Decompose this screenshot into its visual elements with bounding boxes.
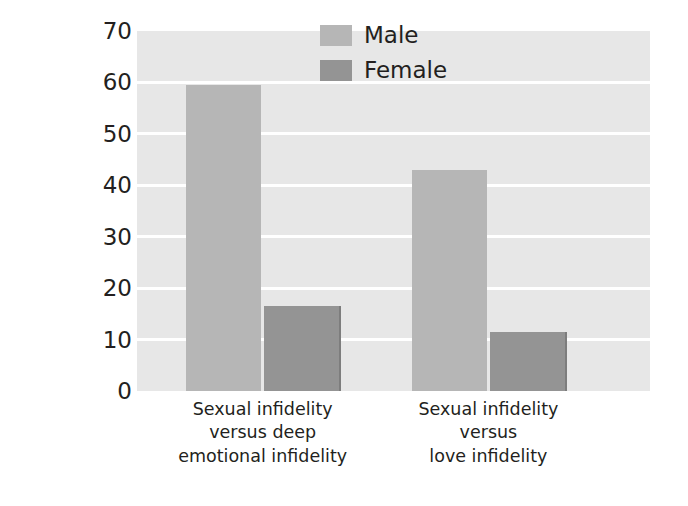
y-tick-label-50: 50	[82, 122, 132, 145]
legend-item-female: Female	[320, 53, 510, 88]
bar-male-group-1	[186, 85, 261, 391]
legend-swatch-male-icon	[320, 25, 352, 46]
category-label-2-line-1: Sexual infidelity	[363, 398, 613, 421]
y-tick-label-70: 70	[82, 20, 132, 43]
category-label-2-line-2: versus	[363, 421, 613, 444]
y-tick-label-30: 30	[82, 225, 132, 248]
y-tick-label-0: 0	[82, 380, 132, 403]
bar-chart-figure: Percentage reporting more distress to se…	[0, 0, 688, 506]
x-axis-category-labels: Sexual infidelityversus deepemotional in…	[137, 398, 650, 498]
legend-label-female: Female	[364, 59, 447, 82]
legend-swatch-female-icon	[320, 60, 352, 81]
y-tick-label-40: 40	[82, 174, 132, 197]
y-tick-label-20: 20	[82, 277, 132, 300]
category-label-1: Sexual infidelityversus deepemotional in…	[138, 398, 388, 468]
y-axis-title-line-1: Percentage reporting more	[0, 0, 22, 22]
bar-female-group-1	[264, 306, 341, 391]
category-label-1-line-2: versus deep	[138, 421, 388, 444]
category-label-2-line-3: love infidelity	[363, 445, 613, 468]
bar-male-group-2	[412, 170, 487, 391]
category-label-1-line-1: Sexual infidelity	[138, 398, 388, 421]
y-tick-label-10: 10	[82, 328, 132, 351]
legend-label-male: Male	[364, 24, 418, 47]
category-label-1-line-3: emotional infidelity	[138, 445, 388, 468]
legend: Male Female	[320, 18, 510, 88]
bar-female-group-2	[490, 332, 567, 391]
y-axis-tick-labels: 010203040506070	[82, 0, 132, 506]
y-tick-label-60: 60	[82, 71, 132, 94]
y-axis-title: Percentage reporting more distress to se…	[0, 0, 78, 400]
legend-item-male: Male	[320, 18, 510, 53]
category-label-2: Sexual infidelityversuslove infidelity	[363, 398, 613, 468]
y-axis-title-line-2: distress to sexual infidelity	[22, 0, 44, 22]
